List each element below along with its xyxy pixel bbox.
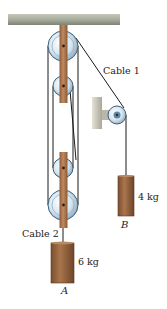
mass-b-label: 4 kg — [138, 191, 159, 202]
axle-icon — [116, 114, 118, 116]
axle-icon — [62, 204, 65, 207]
mass-a-label: 6 kg — [78, 256, 99, 267]
cable-2-label: Cable 2 — [22, 228, 59, 239]
axle-icon — [62, 85, 65, 88]
block-a — [51, 242, 74, 283]
cable-1-label: Cable 1 — [103, 65, 140, 76]
ceiling-support — [8, 14, 120, 25]
axle-icon — [62, 167, 65, 170]
wall-pulley-assembly — [92, 97, 126, 129]
wall-mount — [92, 97, 102, 129]
pulley-system-diagram: Cable 1 Cable 2 4 kg 6 kg B A — [0, 0, 167, 309]
block-a-label: A — [60, 285, 68, 296]
upper-bracket — [60, 25, 68, 103]
block-b-label: B — [120, 219, 128, 230]
lower-bracket — [60, 152, 68, 228]
axle-icon — [62, 45, 65, 48]
block-b — [118, 175, 134, 216]
